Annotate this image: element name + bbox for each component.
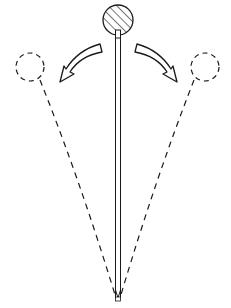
pendulum-rod (116, 34, 121, 298)
right-swing-path (120, 80, 194, 298)
left-swing-arrow-icon (60, 44, 102, 82)
right-ghost-mass (191, 53, 219, 81)
left-ghost-mass (16, 53, 44, 81)
left-swing-path (40, 80, 116, 298)
inverted-pendulum-diagram (0, 0, 231, 308)
right-swing-arrow-icon (135, 44, 177, 82)
pendulum-mass (103, 5, 133, 38)
